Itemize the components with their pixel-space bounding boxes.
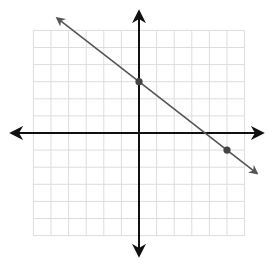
data-point [135, 78, 142, 85]
line-arrow-left [57, 18, 139, 82]
coordinate-plane [0, 0, 272, 267]
data-point [223, 147, 230, 154]
